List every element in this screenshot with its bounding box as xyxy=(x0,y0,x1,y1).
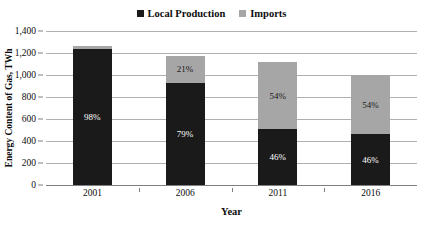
legend-swatch-local-production xyxy=(137,10,144,17)
y-axis-tick-mark xyxy=(38,141,43,142)
x-axis-tick-mark xyxy=(139,188,140,192)
legend-entry-local-production: Local Production xyxy=(137,8,226,19)
y-axis-tick-mark xyxy=(38,31,43,32)
bar-segment-data-label: 79% xyxy=(177,129,194,139)
bar-series-container: 98%21%79%54%46%54%46% xyxy=(46,31,417,185)
y-axis-tick-label: 1,200 xyxy=(15,48,36,58)
stacked-bar[interactable]: 21%79% xyxy=(166,56,205,185)
y-axis-tick-label: 1,000 xyxy=(15,70,36,80)
chart-legend: Local Production Imports xyxy=(0,8,423,19)
bar-segment-local-production[interactable]: 79% xyxy=(166,83,205,185)
bar-segment-imports[interactable]: 54% xyxy=(351,75,390,134)
x-axis-tick-mark xyxy=(232,188,233,192)
x-axis-category-label: 2001 xyxy=(83,188,102,198)
bar-segment-local-production[interactable]: 46% xyxy=(351,134,390,185)
bar-segment-local-production[interactable]: 46% xyxy=(258,129,297,185)
bar-segment-data-label: 98% xyxy=(84,112,101,122)
axis-baseline xyxy=(46,185,417,186)
bar-segment-data-label: 46% xyxy=(270,152,287,162)
y-axis-tick-mark xyxy=(38,75,43,76)
y-axis-tick-label: 0 xyxy=(31,180,36,190)
y-axis-tick-label: 1,400 xyxy=(15,26,36,36)
legend-label-imports: Imports xyxy=(250,8,286,19)
bar-segment-data-label: 54% xyxy=(362,100,379,110)
bar-segment-data-label: 54% xyxy=(270,91,287,101)
y-axis-tick-labels: 02004006008001,0001,2001,400 xyxy=(0,31,44,185)
x-axis-category-labels: 2001200620112016 xyxy=(46,188,417,204)
x-axis-category-label: 2016 xyxy=(361,188,380,198)
bar-group: 21%79% xyxy=(166,31,205,185)
bar-segment-imports[interactable]: 21% xyxy=(166,56,205,83)
bar-group: 98% xyxy=(73,31,112,185)
stacked-bar[interactable]: 98% xyxy=(73,46,112,185)
plot-area: 98%21%79%54%46%54%46% xyxy=(46,31,417,185)
x-axis-category-label: 2006 xyxy=(176,188,195,198)
stacked-bar-chart: Local Production Imports Energy Content … xyxy=(0,0,423,230)
y-axis-tick-mark xyxy=(38,53,43,54)
x-axis-title: Year xyxy=(46,206,417,217)
bar-segment-data-label: 46% xyxy=(362,155,379,165)
y-axis-tick-label: 800 xyxy=(22,92,36,102)
bar-segment-imports[interactable]: 54% xyxy=(258,62,297,129)
bar-group: 54%46% xyxy=(258,31,297,185)
y-axis-tick-mark xyxy=(38,119,43,120)
legend-entry-imports: Imports xyxy=(239,8,286,19)
bar-group: 54%46% xyxy=(351,31,390,185)
legend-swatch-imports xyxy=(239,10,246,17)
y-axis-tick-label: 200 xyxy=(22,158,36,168)
bar-segment-data-label: 21% xyxy=(177,64,194,74)
y-axis-tick-mark xyxy=(38,163,43,164)
y-axis-tick-label: 400 xyxy=(22,136,36,146)
stacked-bar[interactable]: 54%46% xyxy=(258,62,297,185)
stacked-bar[interactable]: 54%46% xyxy=(351,75,390,185)
y-axis-tick-mark xyxy=(38,185,43,186)
y-axis-tick-label: 600 xyxy=(22,114,36,124)
legend-label-local-production: Local Production xyxy=(148,8,226,19)
bar-segment-local-production[interactable]: 98% xyxy=(73,49,112,185)
y-axis-tick-mark xyxy=(38,97,43,98)
x-axis-tick-mark xyxy=(324,188,325,192)
x-axis-category-label: 2011 xyxy=(269,188,288,198)
